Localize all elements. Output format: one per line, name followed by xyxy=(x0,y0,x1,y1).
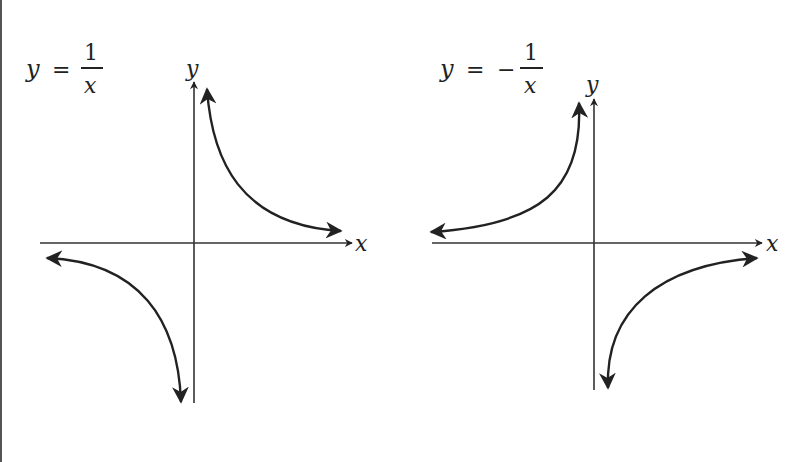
graph-negative-reciprocal: y = − 1 x x y xyxy=(431,40,779,390)
eq1-lhs: y xyxy=(25,55,40,83)
eq1-numerator: 1 xyxy=(84,40,98,65)
eq2-numerator: 1 xyxy=(524,40,538,65)
y-axis-label-1: y xyxy=(185,56,199,81)
eq2-equals: = xyxy=(466,57,484,82)
hyperbola-figure: y = 1 x x y y = − 1 x x y xyxy=(0,0,809,462)
x-axis-label-1: x xyxy=(355,231,368,256)
x-axis-label-2: x xyxy=(766,231,779,256)
eq1-equals: = xyxy=(52,57,70,82)
curve-branch-q3 xyxy=(47,258,181,402)
curve-branch-q4 xyxy=(608,258,757,388)
eq1-denominator: x xyxy=(84,73,97,98)
eq2-lhs: y xyxy=(439,55,454,83)
eq2-denominator: x xyxy=(524,73,537,98)
y-axis-label-2: y xyxy=(585,72,599,97)
equation-label-1: y = 1 x xyxy=(25,40,103,98)
curve-branch-q1 xyxy=(207,89,341,231)
eq2-minus: − xyxy=(497,57,515,82)
equation-label-2: y = − 1 x xyxy=(439,40,543,98)
curve-branch-q2 xyxy=(431,103,579,232)
graph-reciprocal: y = 1 x x y xyxy=(25,40,368,403)
